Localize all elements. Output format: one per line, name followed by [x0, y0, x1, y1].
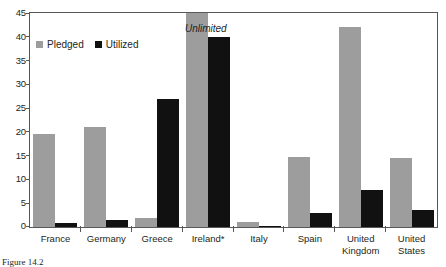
utilized-swatch-icon: [95, 41, 102, 48]
legend-item-label: Utilized: [106, 39, 139, 50]
bar-utilized: [259, 226, 281, 227]
figure-caption: Figure 14.2: [2, 257, 44, 267]
bar-pledged: [339, 27, 361, 227]
y-axis-tick: 5: [21, 197, 29, 209]
bar-utilized: [361, 190, 383, 227]
legend-item-label: Pledged: [47, 39, 84, 50]
y-axis-tick: 35: [16, 55, 29, 67]
bar-pledged: [288, 157, 310, 227]
x-axis-labels: FranceGermanyGreeceIreland*ItalySpainUni…: [30, 233, 437, 256]
bar-group: [183, 13, 234, 227]
x-axis-label: United Kingdom: [335, 233, 386, 256]
bar-pledged: [84, 127, 106, 227]
y-axis-tick: 40: [16, 31, 29, 43]
bar-utilized: [208, 37, 230, 227]
bar-utilized: [157, 99, 179, 227]
y-axis-tick: 20: [16, 126, 29, 138]
unlimited-annotation: Unlimited: [185, 23, 227, 34]
bar-group: [386, 13, 437, 227]
x-axis-label: Ireland*: [183, 233, 234, 256]
x-axis-label: France: [30, 233, 81, 256]
legend-item: Pledged: [36, 39, 84, 50]
x-axis-label: Germany: [81, 233, 132, 256]
bar-pledged: [135, 218, 157, 228]
bar-group: [335, 13, 386, 227]
bar-pledged: [390, 158, 412, 227]
x-axis-label: Spain: [284, 233, 335, 256]
bar-utilized: [412, 210, 434, 227]
y-axis-tick: 0: [21, 220, 29, 232]
y-axis: 051015202530354045: [0, 0, 29, 229]
y-axis-tick: 15: [16, 150, 29, 162]
legend-item: Utilized: [95, 39, 139, 50]
x-axis-label: Italy: [234, 233, 285, 256]
y-axis-tick: 25: [16, 102, 29, 114]
bar-group: [234, 13, 285, 227]
bar-group: [284, 13, 335, 227]
bar-utilized: [106, 220, 128, 227]
chart-legend: PledgedUtilized: [36, 39, 139, 50]
bar-pledged: [186, 13, 208, 227]
bar-pledged: [33, 134, 55, 227]
pledged-swatch-icon: [36, 41, 43, 48]
y-axis-tick: 10: [16, 173, 29, 185]
bar-group: [132, 13, 183, 227]
x-axis-label: United States: [386, 233, 437, 256]
x-axis-label: Greece: [132, 233, 183, 256]
y-axis-tick: 45: [16, 7, 29, 19]
bar-utilized: [55, 223, 77, 227]
bar-pledged: [237, 222, 259, 227]
bar-utilized: [310, 213, 332, 227]
y-axis-tick: 30: [16, 78, 29, 90]
